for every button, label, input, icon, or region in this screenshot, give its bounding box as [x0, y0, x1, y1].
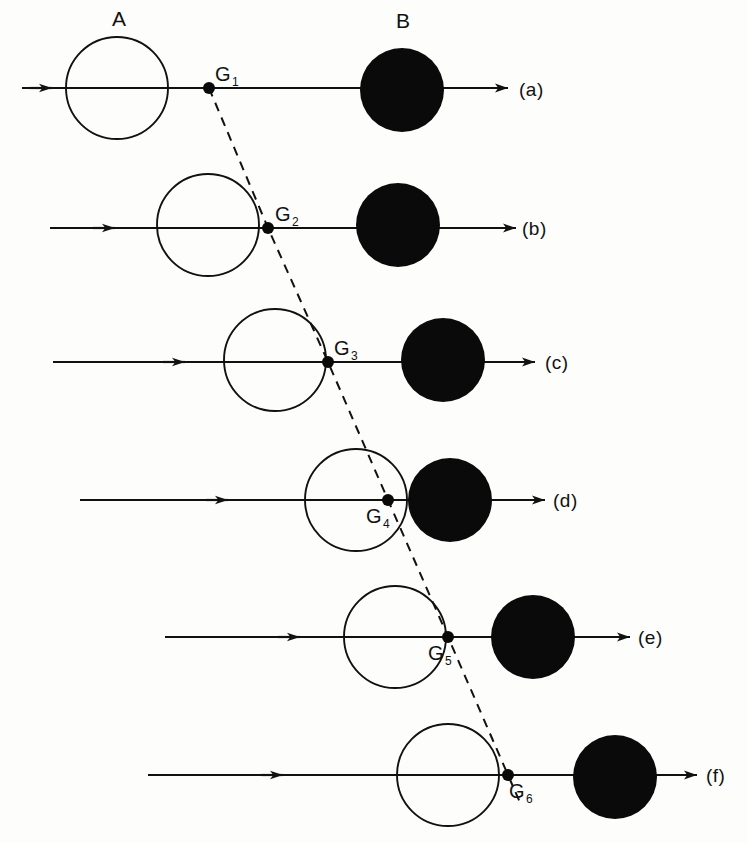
contact-point-letter: G	[334, 337, 350, 359]
contact-point-dot-row-d[interactable]	[382, 494, 394, 506]
contact-point-subscript: 1	[231, 75, 239, 89]
body-b-circle-row-c	[401, 318, 485, 402]
contact-point-subscript: 2	[291, 215, 299, 229]
body-b-circle-row-d	[408, 458, 492, 542]
row-group-row-a	[22, 37, 508, 139]
contact-point-letter: G	[509, 780, 525, 802]
contact-point-letter: G	[275, 203, 291, 225]
dashed-locus-layer	[209, 88, 520, 803]
body-b-circle-row-e	[491, 595, 575, 679]
contact-point-label-row-d: G4	[366, 506, 390, 530]
body-b-circle-row-f	[573, 735, 657, 819]
row-group-row-f	[148, 724, 697, 826]
row-group-row-e	[165, 586, 630, 688]
contact-point-label-row-f: G6	[509, 781, 533, 805]
contact-point-label-row-e: G5	[428, 643, 452, 667]
contact-point-letter: G	[366, 505, 382, 527]
row-label-row-d: (d)	[553, 491, 578, 510]
row-group-row-c	[53, 309, 535, 411]
contact-point-letter: G	[215, 63, 231, 85]
row-group-row-d	[80, 449, 545, 551]
contact-point-letter: G	[428, 642, 444, 664]
body-b-circle-row-a	[360, 48, 444, 132]
contact-point-subscript: 5	[444, 654, 452, 668]
row-label-row-e: (e)	[638, 628, 663, 647]
contact-point-label-row-c: G3	[334, 338, 358, 362]
contact-point-dot-row-c[interactable]	[322, 356, 334, 368]
contact-point-subscript: 6	[525, 792, 533, 806]
object-b-label: B	[396, 10, 410, 31]
contact-point-label-row-a: G1	[215, 64, 239, 88]
contact-point-subscript: 3	[350, 349, 358, 363]
contact-point-label-row-b: G2	[275, 204, 299, 228]
row-label-row-c: (c)	[545, 353, 569, 372]
body-a-circle-row-b	[157, 174, 259, 276]
figure-canvas: A B G1(a)G2(b)G3(c)G4(d)G5(e)G6(f)	[0, 0, 747, 843]
contact-locus	[209, 88, 520, 803]
rows-layer	[22, 37, 697, 826]
contact-point-dot-row-a[interactable]	[203, 82, 215, 94]
contact-point-dot-row-b[interactable]	[262, 222, 274, 234]
diagram-svg	[0, 0, 747, 843]
row-label-row-a: (a)	[519, 80, 544, 99]
contact-point-subscript: 4	[382, 517, 390, 531]
object-a-label: A	[112, 8, 126, 29]
row-label-row-f: (f)	[706, 766, 725, 785]
row-label-row-b: (b)	[522, 219, 547, 238]
body-b-circle-row-b	[356, 183, 440, 267]
